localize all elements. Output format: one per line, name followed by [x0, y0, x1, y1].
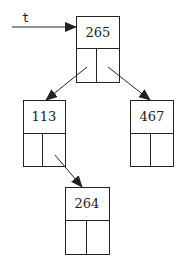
node-left-right: 264	[66, 188, 110, 255]
edge-root-left	[46, 67, 87, 100]
node-value: 265	[86, 25, 111, 40]
node-left: 113	[24, 101, 66, 167]
node-value: 113	[32, 109, 57, 124]
node-right: 467	[131, 101, 174, 167]
edge-left-leftright	[55, 155, 82, 187]
pointer-label: t	[22, 11, 29, 25]
node-value: 264	[75, 196, 100, 211]
edge-root-right	[108, 67, 150, 100]
node-value: 467	[140, 109, 165, 124]
tree-diagram: t 265 113 467 264	[0, 0, 184, 266]
pointer-t: t	[12, 11, 76, 27]
node-root: 265	[77, 17, 120, 83]
